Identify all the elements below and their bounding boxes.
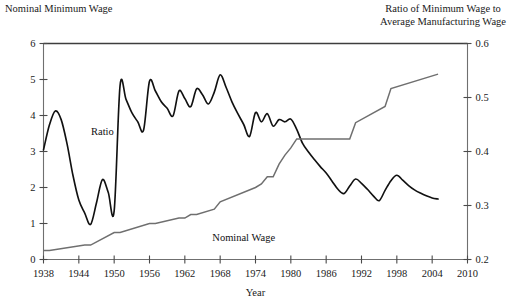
left-axis-tick-label: 4 — [30, 110, 36, 121]
x-axis-tick-label: 1974 — [245, 268, 267, 279]
chart-container: Nominal Minimum Wage Ratio of Minimum Wa… — [0, 0, 511, 297]
x-axis-tick-label: 1968 — [210, 268, 231, 279]
x-axis-tick-label: 1992 — [351, 268, 372, 279]
left-axis-tick-label: 5 — [30, 74, 35, 85]
left-axis-tick-label: 1 — [30, 218, 35, 229]
left-axis-tick-label: 3 — [30, 146, 35, 157]
x-axis-tick-label: 1938 — [33, 268, 54, 279]
right-axis-tick-label: 0.5 — [476, 92, 489, 103]
x-axis-tick-label: 1980 — [280, 268, 301, 279]
right-axis-tick-label: 0.3 — [476, 200, 489, 211]
left-axis-tick-label: 2 — [30, 182, 35, 193]
series-annotations: RatioNominal Wage — [91, 126, 275, 242]
axis-ticks — [40, 44, 472, 264]
left-axis-tick-label: 6 — [30, 38, 35, 49]
data-series — [44, 74, 439, 250]
x-axis-tick-label: 2004 — [422, 268, 444, 279]
x-axis-tick-label: 1998 — [386, 268, 407, 279]
plot-frame — [44, 44, 468, 260]
x-axis-tick-label: 2010 — [457, 268, 478, 279]
x-axis-tick-label: 1944 — [68, 268, 90, 279]
x-axis-tick-label: 1962 — [174, 268, 195, 279]
left-axis-tick-label: 0 — [30, 254, 35, 265]
ratio-series-line — [44, 75, 439, 225]
x-axis-tick-label: 1950 — [104, 268, 125, 279]
x-axis-title: Year — [246, 287, 266, 297]
plot-area: 01234560.20.30.40.50.6193819441950195619… — [0, 0, 511, 297]
right-axis-tick-label: 0.6 — [476, 38, 489, 49]
right-axis-tick-label: 0.2 — [476, 254, 489, 265]
nominal-wage-series-label: Nominal Wage — [212, 232, 275, 243]
ratio-series-label: Ratio — [91, 126, 114, 137]
x-axis-tick-label: 1956 — [139, 268, 160, 279]
right-axis-tick-label: 0.4 — [476, 146, 490, 157]
x-axis-tick-label: 1986 — [316, 268, 337, 279]
nominal-wage-series-line — [44, 74, 439, 250]
